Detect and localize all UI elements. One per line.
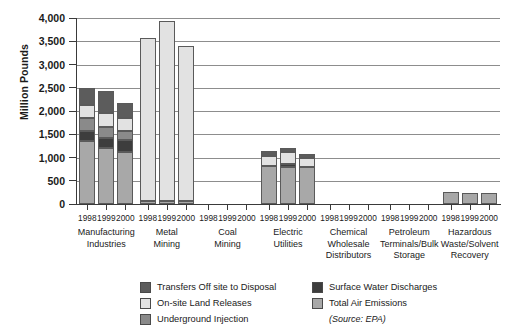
- bar-segment[interactable]: [117, 131, 133, 140]
- y-axis-tick: 0: [0, 198, 76, 210]
- legend-label: Total Air Emissions: [329, 296, 407, 310]
- legend-swatch-icon: [140, 298, 151, 309]
- y-axis-tick-label: 0: [59, 198, 65, 210]
- x-axis-tick-marks: [76, 204, 501, 211]
- x-axis-tick-mark: [470, 204, 471, 210]
- bar-segment[interactable]: [261, 156, 277, 167]
- y-axis-tick: 500: [0, 175, 76, 187]
- x-axis-tick-mark: [288, 204, 289, 210]
- bar-segment[interactable]: [481, 193, 497, 204]
- y-axis-tick-label: 1,000: [39, 152, 65, 164]
- y-axis-tick-mark: [69, 204, 76, 205]
- legend-item[interactable]: Total Air Emissions: [312, 296, 407, 310]
- x-axis-tick-mark: [167, 204, 168, 210]
- bar-segment[interactable]: [299, 158, 315, 167]
- y-axis-tick-label: 3,500: [39, 35, 65, 47]
- x-axis-tick-mark: [246, 204, 247, 210]
- bar-segment[interactable]: [299, 154, 315, 158]
- y-axis-tick-mark: [69, 18, 76, 19]
- x-axis-tick-mark: [451, 204, 452, 210]
- x-axis-year-label: 2000: [474, 212, 504, 225]
- x-axis-category-labels: ManufacturingIndustriesMetalMiningCoalMi…: [76, 227, 501, 273]
- bar-segment[interactable]: [443, 192, 459, 204]
- bar-segment[interactable]: [98, 113, 114, 126]
- legend-item[interactable]: On-site Land Releases: [140, 296, 252, 310]
- y-axis-tick: 3,000: [0, 59, 76, 71]
- y-axis-tick-mark: [69, 180, 76, 181]
- bar-segment[interactable]: [79, 141, 95, 204]
- bar-segment[interactable]: [98, 91, 114, 113]
- x-axis-tick-mark: [148, 204, 149, 210]
- legend-item[interactable]: Surface Water Discharges: [312, 280, 437, 294]
- x-axis-tick-mark: [428, 204, 429, 210]
- bar-segment[interactable]: [159, 21, 175, 201]
- y-axis-tick: 2,000: [0, 105, 76, 117]
- bar-segment[interactable]: [117, 152, 133, 204]
- bar-segment[interactable]: [79, 105, 95, 118]
- legend-swatch-icon: [312, 282, 323, 293]
- gridline: [76, 18, 500, 19]
- y-axis-tick-label: 500: [47, 175, 65, 187]
- bar-segment[interactable]: [79, 88, 95, 106]
- legend-label: Transfers Off site to Disposal: [157, 280, 276, 294]
- y-axis-tick-mark: [69, 111, 76, 112]
- bar-segment[interactable]: [178, 46, 194, 201]
- bar-segment[interactable]: [462, 193, 478, 204]
- x-axis-tick-mark: [409, 204, 410, 210]
- x-axis-category-label: HazardousWaste/SolventRecovery: [431, 227, 505, 262]
- x-axis-tick-mark: [227, 204, 228, 210]
- legend-label: On-site Land Releases: [157, 296, 252, 310]
- x-axis-tick-mark: [368, 204, 369, 210]
- y-axis-tick: 1,500: [0, 128, 76, 140]
- bar-segment[interactable]: [140, 38, 156, 201]
- y-axis-line: [76, 18, 77, 205]
- x-axis-tick-mark: [390, 204, 391, 210]
- source-text: (Source: EPA): [329, 312, 386, 326]
- bar-segment[interactable]: [280, 167, 296, 204]
- y-axis-tick-label: 1,500: [39, 128, 65, 140]
- x-axis-tick-mark: [125, 204, 126, 210]
- bar-segment[interactable]: [280, 164, 296, 167]
- legend-swatch-icon: [140, 282, 151, 293]
- x-axis-tick-mark: [330, 204, 331, 210]
- bar-segment[interactable]: [79, 131, 95, 142]
- bar-segment[interactable]: [261, 151, 277, 156]
- bar-segment[interactable]: [98, 127, 114, 138]
- bar-segment[interactable]: [280, 148, 296, 153]
- legend-swatch-icon: [312, 298, 323, 309]
- bar-segment[interactable]: [261, 166, 277, 204]
- y-axis-tick-label: 2,500: [39, 82, 65, 94]
- legend-source-note: (Source: EPA): [312, 312, 386, 326]
- y-axis-tick-mark: [69, 134, 76, 135]
- x-axis-year-labels: 1998199920001998199920001998199920001998…: [76, 212, 501, 225]
- bar-segment[interactable]: [117, 118, 133, 131]
- bar-segment[interactable]: [117, 103, 133, 118]
- legend-item[interactable]: Underground Injection: [140, 312, 248, 326]
- y-axis-tick-label: 3,000: [39, 59, 65, 71]
- x-axis-tick-mark: [349, 204, 350, 210]
- x-axis-tick-mark: [186, 204, 187, 210]
- chart-figure: Million Pounds 05001,0001,5002,0002,5003…: [0, 0, 505, 334]
- legend-label: Surface Water Discharges: [329, 280, 437, 294]
- bar-segment[interactable]: [98, 148, 114, 204]
- category-label-line: Recovery: [431, 250, 505, 262]
- legend: Transfers Off site to DisposalOn-site La…: [140, 280, 470, 328]
- x-axis-tick-mark: [208, 204, 209, 210]
- bar-segment[interactable]: [280, 152, 296, 163]
- x-axis-tick-mark: [87, 204, 88, 210]
- x-axis-tick-mark: [307, 204, 308, 210]
- bar-segment[interactable]: [79, 118, 95, 130]
- legend-item[interactable]: Transfers Off site to Disposal: [140, 280, 276, 294]
- y-axis-tick-mark: [69, 157, 76, 158]
- y-axis-tick-mark: [69, 64, 76, 65]
- x-axis-tick-mark: [106, 204, 107, 210]
- x-axis-tick-mark: [269, 204, 270, 210]
- legend-swatch-icon: [140, 314, 151, 325]
- y-axis-tick-label: 4,000: [39, 12, 65, 24]
- bar-segment[interactable]: [98, 138, 114, 148]
- bar-segment[interactable]: [299, 167, 315, 204]
- y-axis-tick-mark: [69, 41, 76, 42]
- category-label-line: Waste/Solvent: [431, 239, 505, 251]
- category-label-line: Hazardous: [431, 227, 505, 239]
- bar-segment[interactable]: [117, 140, 133, 152]
